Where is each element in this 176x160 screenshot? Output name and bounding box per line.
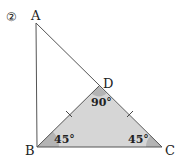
angle-d-label: 90° xyxy=(91,96,112,109)
problem-number: ② xyxy=(6,10,17,24)
point-b-label: B xyxy=(25,143,35,158)
point-c-label: C xyxy=(165,143,175,158)
geometry-figure: ② A B C D 45° 45° 90° xyxy=(0,0,176,160)
angle-b-label: 45° xyxy=(54,133,75,146)
segment-ab xyxy=(36,23,37,147)
angle-c-label: 45° xyxy=(128,133,149,146)
point-a-label: A xyxy=(30,8,41,23)
point-d-label: D xyxy=(103,76,113,91)
